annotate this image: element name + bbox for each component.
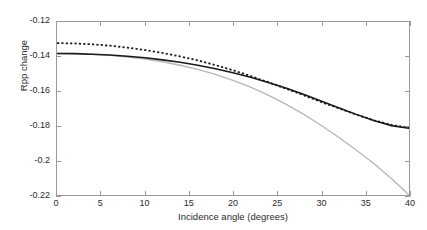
y-tick--0.22: [56, 196, 61, 197]
x-tick-top-35: [366, 21, 367, 26]
x-tick-30: [322, 191, 323, 196]
y-tick-right--0.12: [405, 21, 410, 22]
x-tick-top-40: [410, 21, 411, 26]
x-tick-label-5: 5: [80, 198, 120, 209]
curve-svg: [57, 22, 409, 195]
x-tick-top-25: [277, 21, 278, 26]
series-solid-black-curve: [57, 53, 409, 128]
x-axis-title: Incidence angle (degrees): [56, 211, 410, 222]
y-tick--0.18: [56, 126, 61, 127]
x-tick-label-10: 10: [125, 198, 165, 209]
x-tick-label-15: 15: [169, 198, 209, 209]
x-tick-top-10: [145, 21, 146, 26]
x-tick-top-20: [233, 21, 234, 26]
x-tick-40: [410, 191, 411, 196]
y-tick-right--0.14: [405, 56, 410, 57]
y-tick-label--0.22: -0.22: [4, 190, 50, 201]
x-tick-top-15: [189, 21, 190, 26]
series-group: [57, 43, 409, 195]
chart-figure: 0510152025303540 -0.12-0.14-0.16-0.18-0.…: [0, 0, 427, 230]
x-tick-top-5: [100, 21, 101, 26]
y-tick-right--0.22: [405, 196, 410, 197]
x-tick-label-30: 30: [302, 198, 342, 209]
x-tick-label-25: 25: [257, 198, 297, 209]
x-tick-10: [145, 191, 146, 196]
y-tick-label--0.18: -0.18: [4, 120, 50, 131]
x-tick-15: [189, 191, 190, 196]
x-tick-20: [233, 191, 234, 196]
x-tick-top-30: [322, 21, 323, 26]
x-tick-35: [366, 191, 367, 196]
y-tick-label--0.2: -0.2: [4, 155, 50, 166]
plot-area: [56, 21, 410, 196]
y-tick-right--0.16: [405, 91, 410, 92]
x-tick-5: [100, 191, 101, 196]
y-tick--0.2: [56, 161, 61, 162]
x-tick-label-40: 40: [390, 198, 427, 209]
y-axis-title: Rpp change: [18, 11, 29, 121]
y-tick--0.12: [56, 21, 61, 22]
series-light-gray-curve: [57, 53, 409, 195]
x-tick-label-35: 35: [346, 198, 386, 209]
x-tick-25: [277, 191, 278, 196]
y-tick--0.14: [56, 56, 61, 57]
y-tick-right--0.18: [405, 126, 410, 127]
y-tick-right--0.2: [405, 161, 410, 162]
x-tick-label-20: 20: [213, 198, 253, 209]
y-tick--0.16: [56, 91, 61, 92]
